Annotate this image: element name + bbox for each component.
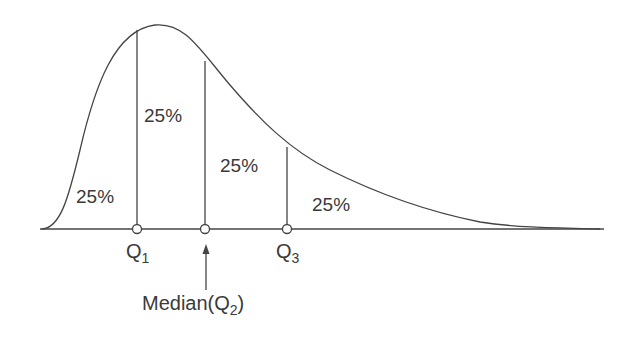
q3-point: [283, 225, 292, 234]
area-label-2: 25%: [144, 105, 182, 127]
area-label-4: 25%: [312, 194, 350, 216]
q1-point: [133, 225, 142, 234]
q3-label: Q3: [276, 240, 299, 266]
q1-label: Q1: [126, 240, 149, 266]
arrow-head-icon: [203, 244, 210, 254]
median-point: [201, 225, 210, 234]
median-label: Median(Q2): [142, 292, 244, 318]
area-label-3: 25%: [220, 155, 258, 177]
area-label-1: 25%: [76, 186, 114, 208]
distribution-diagram: [0, 0, 628, 341]
